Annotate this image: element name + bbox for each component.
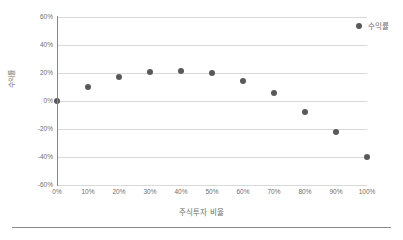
y-axis-tick-label: 40% — [40, 42, 53, 49]
y-axis-tick-label: 20% — [40, 70, 53, 77]
x-axis-tick-label: 80% — [298, 189, 311, 196]
data-point-marker — [209, 70, 215, 76]
y-axis-tick-label: -20% — [38, 126, 53, 133]
scatter-chart-figure: 60%40%20%0%-20%-40%-60% 0%10%20%30%40%50… — [0, 0, 403, 240]
data-point-marker — [116, 74, 122, 80]
chart-legend: 수익률 — [356, 20, 389, 31]
data-point-marker — [178, 68, 184, 74]
gridline — [57, 157, 367, 158]
data-point-marker — [364, 154, 370, 160]
y-axis-tick-label: 0% — [44, 98, 53, 105]
legend-marker-icon — [356, 23, 362, 29]
x-axis-tick-label: 0% — [52, 189, 61, 196]
bottom-divider — [12, 227, 391, 228]
gridline — [57, 101, 367, 102]
data-point-marker — [302, 109, 308, 115]
y-axis-line — [57, 16, 58, 186]
x-axis-tick-label: 90% — [329, 189, 342, 196]
data-point-marker — [240, 78, 246, 84]
y-axis-title: 수익률 — [6, 70, 16, 88]
data-point-marker — [271, 90, 277, 96]
y-axis-tick-labels: 60%40%20%0%-20%-40%-60% — [20, 0, 53, 240]
x-axis-tick-label: 60% — [236, 189, 249, 196]
x-axis-tick-label: 30% — [143, 189, 156, 196]
x-axis-title: 주식투자 비율 — [0, 206, 403, 217]
x-axis-tick-label: 40% — [174, 189, 187, 196]
data-point-marker — [333, 129, 339, 135]
data-point-marker — [85, 84, 91, 90]
x-axis-tick-labels: 0%10%20%30%40%50%60%70%80%90%100% — [57, 189, 367, 201]
y-axis-tick-label: 60% — [40, 14, 53, 21]
gridline — [57, 129, 367, 130]
gridline — [57, 17, 367, 18]
gridline — [57, 185, 367, 186]
x-axis-tick-label: 50% — [205, 189, 218, 196]
y-axis-tick-label: -40% — [38, 154, 53, 161]
x-axis-tick-label: 10% — [81, 189, 94, 196]
gridline — [57, 45, 367, 46]
x-axis-tick-label: 20% — [112, 189, 125, 196]
plot-area — [57, 17, 367, 185]
x-axis-tick-label: 70% — [267, 189, 280, 196]
legend-label: 수익률 — [368, 20, 389, 31]
data-point-marker — [147, 69, 153, 75]
y-axis-tick-label: -60% — [38, 182, 53, 189]
x-axis-tick-label: 100% — [359, 189, 376, 196]
